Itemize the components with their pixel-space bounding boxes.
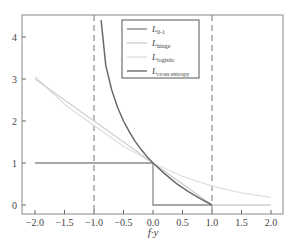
x-tick-label: −1.0 [85, 217, 103, 228]
y-tick-label: 2 [12, 116, 17, 127]
x-tick-label: −1.5 [55, 217, 73, 228]
x-axis-label: f·y [148, 226, 159, 238]
x-tick-label: 2.0 [265, 217, 278, 228]
series-line [35, 163, 212, 205]
x-tick-label: −0.5 [114, 217, 132, 228]
y-tick-label: 0 [12, 200, 17, 211]
x-tick-label: 1.0 [206, 217, 219, 228]
x-tick-label: 1.5 [235, 217, 248, 228]
y-tick-label: 3 [12, 74, 17, 85]
loss-function-chart: −2.0−1.5−1.0−0.50.00.51.01.52.001234 f·y… [0, 0, 293, 249]
y-tick-label: 1 [12, 158, 17, 169]
x-tick-label: 0.5 [176, 217, 189, 228]
y-tick-label: 4 [12, 32, 17, 43]
x-tick-label: −2.0 [26, 217, 44, 228]
legend: L0-1LhingeLlogisticLcross entropy [122, 20, 199, 78]
